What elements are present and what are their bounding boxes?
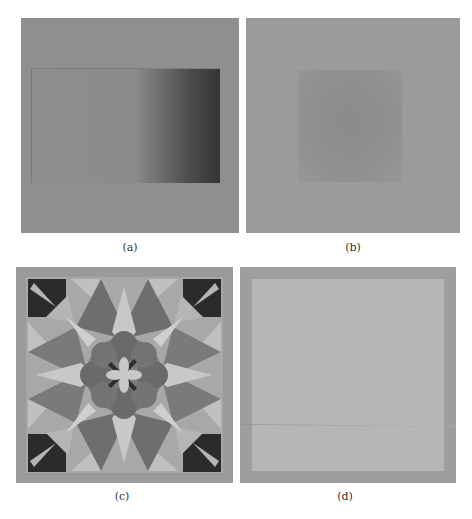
caption-d: (d) <box>315 490 375 503</box>
panel-a-image <box>21 18 239 233</box>
panel-b-image <box>246 18 460 233</box>
gradient-rectangle <box>31 68 220 183</box>
panel-d-image <box>240 267 456 483</box>
caption-c: (c) <box>92 490 152 503</box>
panel-c-image <box>16 267 233 483</box>
quilt-star-pattern <box>16 267 233 483</box>
caption-b: (b) <box>323 241 383 254</box>
faint-central-square <box>298 70 402 182</box>
light-inner-square <box>252 279 444 471</box>
caption-a: (a) <box>100 241 160 254</box>
